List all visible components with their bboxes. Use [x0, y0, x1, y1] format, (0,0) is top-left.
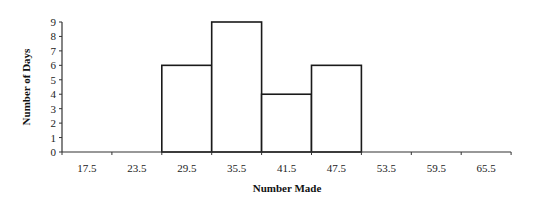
y-tick-label: 3 [51, 103, 57, 115]
y-axis: 0123456789 [51, 16, 63, 158]
x-tick-label: 65.5 [477, 162, 497, 174]
histogram-bar [262, 94, 312, 152]
x-tick-label: 59.5 [427, 162, 447, 174]
y-axis-title: Number of Days [20, 48, 32, 126]
y-tick-label: 9 [51, 16, 57, 28]
x-tick-label: 53.5 [377, 162, 397, 174]
x-tick-label: 35.5 [227, 162, 247, 174]
y-tick-label: 0 [51, 146, 57, 158]
x-tick-label: 29.5 [177, 162, 197, 174]
x-tick-label: 41.5 [277, 162, 297, 174]
x-tick-label: 17.5 [77, 162, 97, 174]
x-axis-title: Number Made [253, 182, 322, 194]
y-tick-label: 5 [51, 74, 57, 86]
histogram-bar [212, 22, 262, 152]
y-tick-label: 2 [51, 117, 57, 129]
y-tick-label: 8 [51, 30, 57, 42]
x-tick-label: 47.5 [327, 162, 347, 174]
x-axis: 17.523.529.535.541.547.553.559.565.5 [62, 152, 511, 174]
histogram-bar [162, 65, 212, 152]
x-tick-label: 23.5 [127, 162, 147, 174]
y-tick-label: 1 [51, 132, 57, 144]
histogram-bar [312, 65, 362, 152]
histogram-chart: 0123456789 17.523.529.535.541.547.553.55… [0, 0, 536, 203]
y-tick-label: 6 [51, 59, 57, 71]
y-tick-label: 4 [51, 88, 57, 100]
y-tick-label: 7 [51, 45, 57, 57]
bars [162, 22, 362, 152]
